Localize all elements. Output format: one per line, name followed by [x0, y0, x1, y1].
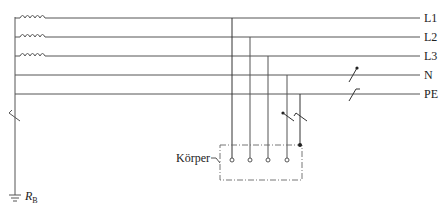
- earth-icon: [9, 195, 21, 201]
- coil-icon: [20, 16, 45, 19]
- coil-icon: [20, 54, 45, 57]
- terminal-L3-icon: [266, 158, 270, 162]
- body-label-leader: [211, 158, 220, 163]
- conductor-PE: PE: [15, 87, 438, 101]
- conductor-label-PE: PE: [424, 87, 438, 101]
- terminal-N-icon: [285, 158, 289, 162]
- protective-earth-marker-icon: [349, 89, 356, 101]
- conductor-label-L2: L2: [424, 30, 437, 44]
- body-label: Körper: [176, 151, 210, 165]
- conductor-N: N: [15, 66, 433, 82]
- network-diagram: RB L1 L2 L3 N PE: [0, 0, 444, 208]
- conductor-L3: L3: [15, 49, 437, 63]
- drop-neutral-marker-icon: [283, 113, 294, 121]
- terminal-L2-icon: [248, 158, 252, 162]
- break-mark-tick: [9, 110, 12, 113]
- earth-resistance-label: RB: [24, 189, 38, 205]
- coil-icon: [20, 35, 45, 38]
- conductor-label-L3: L3: [424, 49, 437, 63]
- drop-pe-marker-icon: [296, 113, 307, 121]
- conductor-L2: L2: [15, 30, 437, 44]
- pe-junction-dot-icon: [298, 143, 302, 147]
- conductor-label-L1: L1: [424, 11, 437, 25]
- conductor-label-N: N: [424, 68, 433, 82]
- terminal-L1-icon: [230, 158, 234, 162]
- conductor-L1: L1: [15, 11, 437, 25]
- neutral-dot-icon: [355, 66, 358, 69]
